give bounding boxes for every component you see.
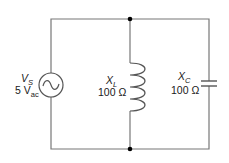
capacitor-icon xyxy=(201,81,217,86)
inductor-value: 100 Ω xyxy=(98,86,126,98)
inductor-value-label: 100 Ω xyxy=(98,87,126,98)
inductor-symbol: X xyxy=(106,74,113,86)
source-value-label: 5 Vac xyxy=(15,85,39,97)
capacitor-symbol: X xyxy=(178,70,185,82)
inductor-coil-icon xyxy=(130,63,145,111)
capacitor-value: 100 Ω xyxy=(171,84,199,96)
source-value-subscript: ac xyxy=(31,90,39,99)
top-junction-node xyxy=(128,17,133,22)
bottom-junction-node xyxy=(128,147,133,152)
capacitor-value-label: 100 Ω xyxy=(171,85,199,96)
capacitor-symbol-label: XC xyxy=(178,71,190,83)
source-symbol: V xyxy=(21,72,28,84)
source-value: 5 V xyxy=(15,84,31,96)
ac-voltage-source-icon xyxy=(39,73,63,97)
